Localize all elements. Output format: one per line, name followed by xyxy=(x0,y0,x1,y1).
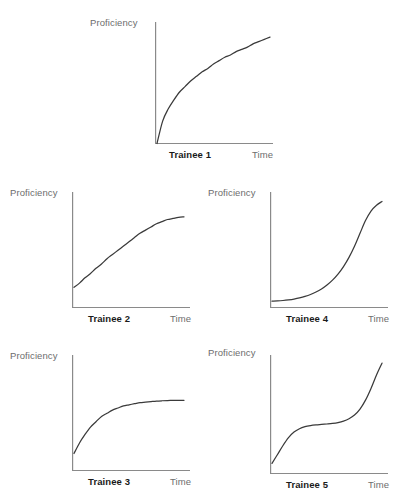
x-axis-label: Time xyxy=(368,480,389,490)
curve-line-trainee-5 xyxy=(272,363,382,463)
axis-lines xyxy=(156,22,273,144)
curve-line-trainee-1 xyxy=(157,37,270,143)
x-axis-label: Time xyxy=(368,314,389,324)
chart-panel-trainee-5: Proficiency Trainee 5 Time xyxy=(270,355,390,477)
chart-panel-trainee-1: Proficiency Trainee 1 Time xyxy=(155,22,275,144)
chart-panel-trainee-3: Proficiency Trainee 3 Time xyxy=(72,355,192,477)
curve-line-trainee-2 xyxy=(74,217,184,287)
y-axis-label: Proficiency xyxy=(10,351,58,361)
y-axis-label: Proficiency xyxy=(208,348,256,358)
panel-title-trainee-2: Trainee 2 xyxy=(88,314,130,324)
curve-line-trainee-4 xyxy=(272,202,382,302)
panel-title-trainee-4: Trainee 4 xyxy=(286,314,328,324)
panel-title-trainee-5: Trainee 5 xyxy=(286,480,328,490)
chart-svg-trainee-5 xyxy=(270,355,395,481)
axis-lines xyxy=(271,355,388,474)
chart-panel-trainee-2: Proficiency Trainee 2 Time xyxy=(72,192,192,314)
panel-title-trainee-3: Trainee 3 xyxy=(88,477,130,487)
x-axis-label: Time xyxy=(170,477,191,487)
y-axis-label: Proficiency xyxy=(208,188,256,198)
y-axis-label: Proficiency xyxy=(90,18,138,28)
chart-svg-trainee-4 xyxy=(270,192,395,318)
axis-lines xyxy=(73,192,190,308)
axis-lines xyxy=(73,355,190,471)
chart-panel-trainee-4: Proficiency Trainee 4 Time xyxy=(270,192,390,314)
x-axis-label: Time xyxy=(170,314,191,324)
panel-title-trainee-1: Trainee 1 xyxy=(169,150,211,160)
x-axis-label: Time xyxy=(252,150,273,160)
y-axis-label: Proficiency xyxy=(10,188,58,198)
chart-svg-trainee-3 xyxy=(72,355,197,481)
chart-svg-trainee-1 xyxy=(155,22,280,148)
axis-lines xyxy=(271,192,388,308)
learning-curves-figure: Proficiency Trainee 1 Time Proficiency T… xyxy=(0,0,403,503)
chart-svg-trainee-2 xyxy=(72,192,197,318)
curve-line-trainee-3 xyxy=(74,400,184,453)
